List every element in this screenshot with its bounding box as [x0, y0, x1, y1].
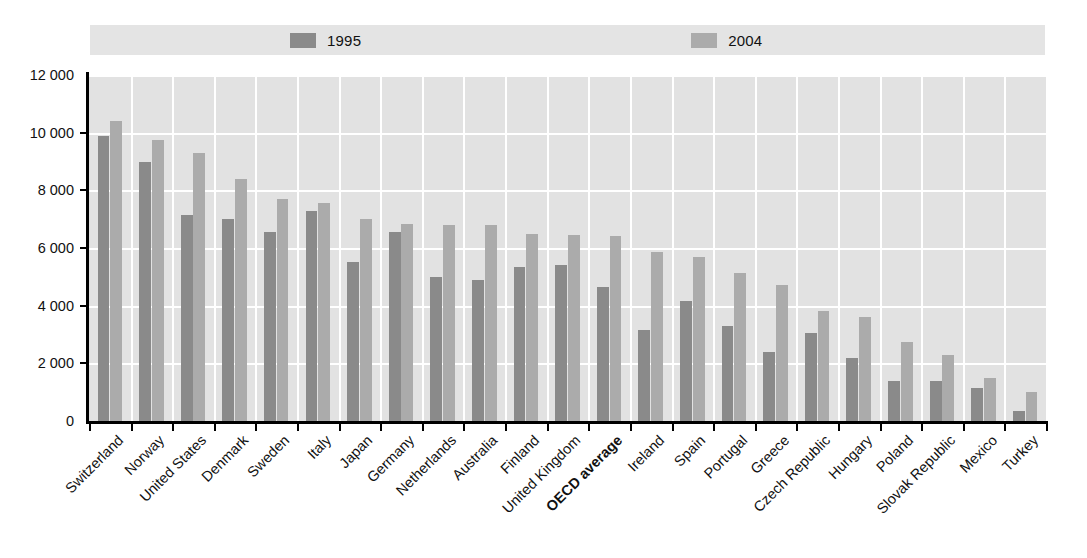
x-tick-mark	[297, 424, 299, 431]
x-category-label: OECD average	[543, 432, 626, 515]
x-category-label: Slovak Republic	[873, 432, 958, 517]
x-category-label: Australia	[449, 432, 500, 483]
x-tick-mark	[838, 424, 840, 431]
y-tick-mark	[80, 189, 89, 191]
x-category-label: Japan	[336, 432, 375, 471]
x-axis-category-labels: SwitzerlandNorwayUnited StatesDenmarkSwe…	[0, 0, 1087, 558]
x-tick-mark	[422, 424, 424, 431]
x-tick-mark	[672, 424, 674, 431]
x-tick-mark	[131, 424, 133, 431]
x-category-label: Switzerland	[62, 432, 126, 496]
x-tick-mark	[339, 424, 341, 431]
x-tick-mark	[1046, 424, 1048, 431]
x-tick-mark	[921, 424, 923, 431]
x-tick-mark	[796, 424, 798, 431]
x-tick-mark	[380, 424, 382, 431]
x-tick-mark	[214, 424, 216, 431]
x-category-label: Portugal	[701, 432, 751, 482]
x-category-label: Turkey	[999, 432, 1041, 474]
x-category-label: Hungary	[825, 432, 875, 482]
x-category-label: Mexico	[956, 432, 1000, 476]
y-tick-mark	[80, 305, 89, 307]
y-tick-mark	[80, 132, 89, 134]
y-tick-mark	[80, 247, 89, 249]
x-category-label: Spain	[671, 432, 709, 470]
x-tick-mark	[547, 424, 549, 431]
x-tick-mark	[172, 424, 174, 431]
x-category-label: Sweden	[244, 432, 292, 480]
x-tick-mark	[463, 424, 465, 431]
y-tick-mark	[80, 362, 89, 364]
x-tick-mark	[630, 424, 632, 431]
x-category-label: Czech Republic	[750, 432, 833, 515]
x-category-label: Ireland	[624, 432, 667, 475]
x-tick-mark	[255, 424, 257, 431]
x-tick-mark	[880, 424, 882, 431]
x-tick-mark	[1004, 424, 1006, 431]
x-category-label: Italy	[304, 432, 334, 462]
x-tick-mark	[755, 424, 757, 431]
x-tick-mark	[505, 424, 507, 431]
x-tick-mark	[588, 424, 590, 431]
x-tick-mark	[713, 424, 715, 431]
x-tick-mark	[963, 424, 965, 431]
x-tick-mark	[89, 424, 91, 431]
